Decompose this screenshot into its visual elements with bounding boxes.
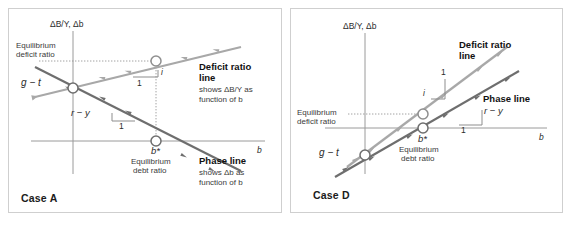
case-a-g-minus-t-label: g − t: [21, 77, 41, 88]
case-a-case-label: Case A: [21, 192, 57, 204]
case-a-g-minus-t-point: [68, 83, 78, 93]
case-d-case-label: Case D: [313, 189, 350, 201]
case-d-equilibrium-debt-point: [418, 123, 428, 133]
case-a-deficit-line-note-1: shows ΔB/Y as: [199, 85, 253, 95]
case-d-phase-slope-rise: r − y: [484, 105, 503, 116]
case-d-b-star-label: b*: [418, 133, 427, 144]
case-d-equilibrium-deficit-label-line2: deficit ratio: [297, 117, 336, 127]
case-a-deficit-line-title-1: Deficit ratio: [199, 61, 251, 72]
case-a-x-axis-label: b: [257, 145, 262, 155]
figure-root: ΔB/Y, Δb b Equilibrium deficit ratio g −…: [0, 0, 571, 229]
case-d-g-minus-t-label: g − t: [319, 147, 339, 158]
case-a-phase-slope-triangle: [112, 113, 135, 121]
case-d-x-axis-label: b: [539, 132, 544, 142]
case-a-equilibrium-deficit-label-line2: deficit ratio: [16, 50, 55, 60]
case-d-equilibrium-debt-label-line2: debt ratio: [401, 154, 434, 164]
case-a-phase-slope-rise: r − y: [71, 107, 90, 118]
case-d-phase-slope-triangle: [459, 110, 482, 125]
case-a-equilibrium-debt-label-line2: debt ratio: [133, 166, 166, 176]
case-d-deficit-slope-rise: 1: [441, 67, 446, 77]
case-a-deficit-line-title-2: line: [199, 72, 215, 83]
case-d-deficit-line-title-2: line: [459, 50, 475, 61]
case-d-y-axis-label: ΔB/Y, Δb: [343, 21, 376, 31]
case-a-phase-slope-run: 1: [119, 121, 124, 131]
case-d-phase-line-title: Phase line: [483, 93, 530, 104]
case-d-g-minus-t-point: [360, 150, 370, 160]
case-a-deficit-slope-run: 1: [137, 78, 142, 88]
case-a-equilibrium-deficit-point: [151, 56, 161, 66]
case-d-deficit-line-title-1: Deficit ratio: [459, 39, 511, 50]
case-a-deficit-line-note-2: function of b: [199, 95, 243, 105]
panel-case-d: ΔB/Y, Δb b Equilibrium deficit ratio g −…: [290, 8, 563, 213]
case-d-equilibrium-deficit-point: [418, 109, 428, 119]
case-a-phase-line-note-2: function of b: [199, 178, 243, 188]
case-a-phase-line-note-1: shows Δb as: [199, 168, 244, 178]
case-a-y-axis-label: ΔB/Y, Δb: [50, 19, 83, 29]
case-d-deficit-slope-run: i: [423, 88, 425, 98]
panel-case-a: ΔB/Y, Δb b Equilibrium deficit ratio g −…: [8, 8, 282, 213]
case-d-phase-slope-run: 1: [461, 125, 466, 135]
case-a-phase-line-title: Phase line: [199, 155, 246, 166]
case-a-deficit-slope-rise: i: [161, 67, 163, 77]
case-a-b-star-label: b*: [151, 145, 160, 156]
